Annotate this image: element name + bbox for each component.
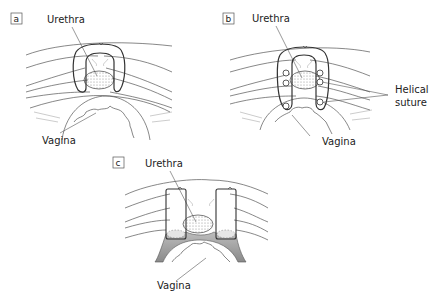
vagina-label-c: Vagina — [157, 280, 191, 291]
vagina-wall-a — [74, 106, 134, 138]
urethra-label-b: Urethra — [252, 13, 290, 24]
vagina-label-b: Vagina — [322, 136, 356, 147]
helical-label-line2: suture — [395, 97, 427, 108]
figure: a Urethra Vagina b — [0, 0, 432, 297]
vagina-leader-b — [292, 115, 310, 136]
urethra-leader-b — [276, 26, 302, 78]
urethra-c — [183, 215, 213, 233]
vagina-leader-c — [176, 258, 206, 281]
helical-label-line1: Helical — [395, 84, 429, 95]
panel-label-c: c — [116, 158, 121, 168]
urethra-label-c: Urethra — [145, 158, 183, 169]
helical-leader-1 — [322, 82, 388, 95]
vagina-wall-c — [172, 242, 230, 262]
vagina-label-a: Vagina — [42, 135, 76, 146]
vagina-wall-b — [275, 107, 332, 134]
urethra-label-a: Urethra — [47, 14, 85, 25]
panel-label-b: b — [226, 14, 232, 24]
panel-a: a Urethra Vagina — [11, 13, 172, 146]
urethra-leader-c — [170, 171, 196, 222]
panel-label-a: a — [14, 14, 20, 24]
urethra-a — [84, 71, 114, 89]
vagina-leader-a — [60, 113, 96, 133]
tissue-layers-a — [26, 43, 172, 140]
panel-c: c Urethra Vagina — [113, 157, 268, 291]
panel-b: b Urethra Vagina — [223, 13, 429, 147]
